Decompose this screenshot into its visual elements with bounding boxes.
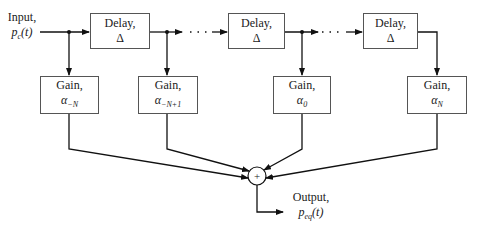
delay-block-3: Delay,Δ bbox=[363, 13, 418, 49]
delay-block-2: Delay,Δ bbox=[228, 13, 285, 49]
delay-block-1: Delay,Δ bbox=[90, 13, 150, 49]
tapped-delay-line-diagram: Input, pc(t) Delay,Δ Delay,Δ Delay,Δ Gai… bbox=[0, 0, 478, 238]
gain-block-0: Gain, α0 bbox=[273, 76, 331, 114]
gain-block-minus-n-plus-1: Gain, α−N+1 bbox=[138, 76, 198, 114]
output-label: Output, peq(t) bbox=[288, 190, 334, 224]
gain-block-minus-n: Gain, α−N bbox=[40, 76, 99, 114]
summer-plus-icon: + bbox=[250, 169, 264, 183]
gain-block-n: Gain, αN bbox=[407, 76, 467, 114]
input-label: Input, pc(t) bbox=[2, 10, 42, 44]
